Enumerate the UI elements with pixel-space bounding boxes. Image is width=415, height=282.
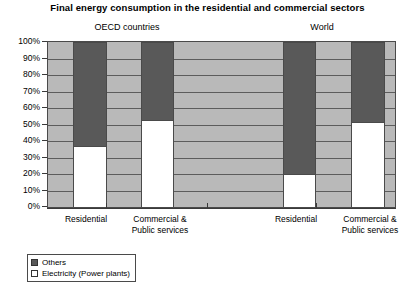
y-axis-tick-label: 30% [0, 153, 40, 162]
bar-segment-electricity [284, 174, 315, 207]
bar-segment-others [284, 43, 315, 174]
chart-legend: Others Electricity (Power plants) [27, 254, 136, 282]
bar-segment-others [74, 43, 106, 146]
bar-stack [351, 42, 385, 207]
legend-swatch-electricity-icon [31, 270, 38, 277]
bar-segment-electricity [74, 146, 106, 207]
bar-stack [141, 42, 174, 207]
x-axis-category-label: Commercial & Public services [118, 214, 202, 235]
x-axis-line [47, 208, 396, 209]
y-axis-tick-label: 60% [0, 103, 40, 112]
chart-title: Final energy consumption in the resident… [0, 2, 415, 13]
y-axis-tick-label: 0% [0, 202, 40, 211]
bar-stack [73, 42, 107, 207]
legend-swatch-others-icon [31, 259, 38, 266]
legend-item-electricity: Electricity (Power plants) [31, 268, 130, 279]
bar-stack [283, 42, 316, 207]
y-axis-tick-label: 40% [0, 136, 40, 145]
legend-item-others: Others [31, 257, 130, 268]
chart-container: Final energy consumption in the resident… [0, 0, 415, 282]
x-axis-tick-mark [316, 203, 317, 208]
bar-segment-electricity [352, 122, 384, 207]
y-axis-tick-label: 80% [0, 70, 40, 79]
y-axis-tick-label: 90% [0, 54, 40, 63]
y-axis-tick-label: 100% [0, 37, 40, 46]
legend-label-others: Others [42, 258, 66, 267]
x-axis-category-label: Commercial & Public services [328, 214, 412, 235]
plot-area [47, 41, 396, 208]
x-axis-tick-mark [207, 203, 208, 208]
bar-segment-others [142, 43, 173, 120]
group-header-oecd: OECD countries [62, 22, 192, 32]
y-axis-tick-label: 20% [0, 169, 40, 178]
x-axis-category-label: Residential [48, 214, 124, 225]
group-header-world: World [272, 22, 372, 32]
bar-segment-others [352, 43, 384, 122]
y-axis-tick-label: 10% [0, 186, 40, 195]
x-axis-category-label: Residential [258, 214, 334, 225]
y-axis-tick-label: 70% [0, 87, 40, 96]
y-axis-tick-label: 50% [0, 120, 40, 129]
legend-label-electricity: Electricity (Power plants) [42, 269, 130, 278]
x-axis-tick-mark [106, 203, 107, 208]
bar-segment-electricity [142, 120, 173, 207]
